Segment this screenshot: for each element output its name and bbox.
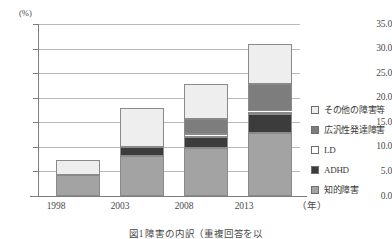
y-tick-label-35: 35.0	[358, 20, 392, 30]
legend-label-intellectual: 知的障害	[324, 185, 359, 195]
legend-item-adhd[interactable]: ADHD	[311, 160, 391, 180]
figure-container: (%) 35.0 30.0 25.0 20.0 15.0 10.0 5.0 0.…	[0, 0, 392, 239]
plot-area	[38, 24, 300, 196]
bar-segment-2008-pdd[interactable]	[184, 119, 228, 134]
legend-item-ld[interactable]: LD	[311, 140, 391, 160]
adhd-swatch-icon	[311, 166, 319, 174]
y-tick-mark-0	[33, 196, 38, 197]
bar-segment-2008-ld[interactable]	[184, 134, 228, 137]
chart-legend: その他の障害等 広汎性発達障害 LD ADHD 知的障害	[311, 100, 391, 200]
x-axis-unit-label: （年）	[297, 201, 327, 212]
legend-item-pdd[interactable]: 広汎性発達障害	[311, 120, 391, 140]
ld-swatch-icon	[311, 146, 319, 154]
bar-segment-1998-other[interactable]	[56, 160, 100, 175]
y-tick-label-30: 30.0	[358, 44, 392, 54]
x-tick-label-2003: 2003	[90, 201, 150, 212]
bar-segment-2008-adhd[interactable]	[184, 137, 228, 148]
x-axis-line	[30, 196, 307, 197]
bar-segment-2013-adhd[interactable]	[248, 114, 292, 133]
legend-item-other[interactable]: その他の障害等	[311, 100, 391, 120]
bar-segment-2008-intellectual[interactable]	[184, 148, 228, 196]
bar-segment-2003-other[interactable]	[120, 108, 164, 147]
bar-segment-2003-adhd[interactable]	[120, 147, 164, 156]
legend-label-adhd: ADHD	[324, 165, 349, 175]
x-tick-label-2013: 2013	[214, 201, 274, 212]
intellectual-swatch-icon	[311, 186, 319, 194]
legend-label-ld: LD	[324, 145, 335, 155]
figure-caption: 図1 障害の内訳（重複回答を以	[0, 229, 392, 239]
legend-item-intellectual[interactable]: 知的障害	[311, 180, 391, 200]
x-tick-label-2008: 2008	[154, 201, 214, 212]
pdd-swatch-icon	[311, 126, 319, 134]
other-swatch-icon	[311, 106, 319, 114]
bar-segment-2013-intellectual[interactable]	[248, 133, 292, 196]
bar-segment-2013-ld[interactable]	[248, 112, 292, 115]
bar-segment-2013-other[interactable]	[248, 44, 292, 84]
x-tick-label-1998: 1998	[26, 201, 86, 212]
bar-segment-2008-other[interactable]	[184, 84, 228, 119]
legend-label-other: その他の障害等	[324, 105, 385, 115]
bar-segment-2013-pdd[interactable]	[248, 84, 292, 112]
legend-label-pdd: 広汎性発達障害	[324, 125, 385, 135]
bar-segment-2003-intellectual[interactable]	[120, 156, 164, 196]
y-axis-unit-label: (%)	[19, 9, 32, 18]
bar-segment-1998-intellectual[interactable]	[56, 175, 100, 196]
y-tick-label-25: 25.0	[358, 69, 392, 79]
